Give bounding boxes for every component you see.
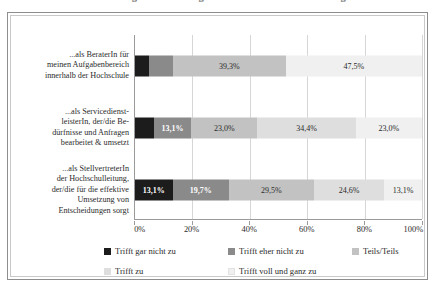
chart-row: ...als BeraterIn für meinen Aufgabenbere…	[135, 35, 422, 97]
stacked-bar: 13,1% 23,0% 34,4% 23,0%	[135, 118, 422, 139]
bar-segment-trifft-gar-nicht-zu[interactable]: 13,1%	[135, 180, 173, 201]
bar-segment-teils-teils[interactable]: 23,0%	[191, 118, 257, 139]
bar-segment-trifft-eher-nicht-zu[interactable]: 13,1%	[154, 118, 192, 139]
legend-swatch-icon	[104, 248, 111, 255]
legend-item-teils-teils[interactable]: Teils/Teils	[352, 241, 399, 261]
legend-item-trifft-eher-nicht-zu[interactable]: Trifft eher nicht zu	[228, 241, 352, 261]
chart-row: ...als Servicedienst- leisterIn, der/die…	[135, 97, 422, 159]
bar-segment-teils-teils[interactable]: 29,5%	[229, 180, 314, 201]
bar-segment-trifft-voll-und-ganz-zu[interactable]: 23,0%	[356, 118, 422, 139]
bar-segment-teils-teils[interactable]: 39,3%	[173, 56, 286, 77]
bar-segment-trifft-eher-nicht-zu[interactable]: 19,7%	[173, 180, 230, 201]
legend-row: Trifft zu Trifft voll und ganz zu	[30, 261, 422, 281]
x-tick-label: 40%	[242, 225, 257, 234]
gridline-100	[422, 35, 423, 219]
category-label-line: Umsetzung von	[17, 195, 129, 205]
category-label-line: innerhalb der Hochschule	[17, 71, 129, 81]
legend-swatch-icon	[228, 248, 235, 255]
chart-legend: Trifft gar nicht zu Trifft eher nicht zu…	[30, 241, 422, 285]
category-label-line: ...als BeraterIn für	[17, 50, 129, 60]
x-tick-label: 20%	[184, 225, 199, 234]
legend-label: Trifft gar nicht zu	[115, 246, 176, 256]
category-label: ...als Servicedienst- leisterIn, der/die…	[17, 107, 135, 149]
category-label-line: meinen Aufgabenbereich	[17, 61, 129, 71]
clipped-figure-title: Abbildung: Einschätzung der Rolle der Ho…	[0, 0, 435, 2]
legend-item-trifft-zu[interactable]: Trifft zu	[104, 261, 228, 281]
bar-segment-trifft-zu[interactable]: 34,4%	[257, 118, 356, 139]
legend-label: Trifft voll und ganz zu	[239, 266, 316, 276]
category-label: ...als StellvertreterIn der Hochschullei…	[17, 164, 135, 216]
x-tick-label: 60%	[299, 225, 314, 234]
plot-area: ...als BeraterIn für meinen Aufgabenbere…	[134, 35, 422, 220]
x-axis: 0% 20% 40% 60% 80% 100%	[134, 221, 422, 237]
legend-label: Teils/Teils	[363, 246, 399, 256]
category-label-line: leisterIn, der/die Be-	[17, 118, 129, 128]
stacked-bar: 13,1% 19,7% 29,5% 24,6% 13,1%	[135, 180, 422, 201]
category-label-line: bearbeitet & umsetzt	[17, 138, 129, 148]
legend-swatch-icon	[352, 248, 359, 255]
legend-label: Trifft eher nicht zu	[239, 246, 304, 256]
legend-row: Trifft gar nicht zu Trifft eher nicht zu…	[30, 241, 422, 261]
legend-item-trifft-gar-nicht-zu[interactable]: Trifft gar nicht zu	[104, 241, 228, 261]
bar-segment-trifft-voll-und-ganz-zu[interactable]: 13,1%	[384, 180, 422, 201]
bar-segment-trifft-zu[interactable]: 24,6%	[314, 180, 385, 201]
bar-segment-trifft-voll-und-ganz-zu[interactable]: 47,5%	[286, 56, 422, 77]
category-label-line: dürfnisse und Anfragen	[17, 128, 129, 138]
chart-row: ...als StellvertreterIn der Hochschullei…	[135, 159, 422, 221]
category-label-line: Entscheidungen sorgt	[17, 206, 129, 216]
x-tick-label: 80%	[357, 225, 372, 234]
legend-swatch-icon	[228, 268, 235, 275]
bar-segment-trifft-gar-nicht-zu[interactable]	[135, 56, 149, 77]
chart-outer-frame: ...als BeraterIn für meinen Aufgabenbere…	[7, 12, 428, 280]
category-label-line: ...als Servicedienst-	[17, 107, 129, 117]
stacked-bar: 39,3% 47,5%	[135, 56, 422, 77]
stacked-bar-chart-figure: Abbildung: Einschätzung der Rolle der Ho…	[0, 0, 435, 286]
legend-swatch-icon	[104, 268, 111, 275]
legend-item-trifft-voll-und-ganz-zu[interactable]: Trifft voll und ganz zu	[228, 261, 316, 281]
legend-label: Trifft zu	[115, 266, 143, 276]
category-label: ...als BeraterIn für meinen Aufgabenbere…	[17, 50, 135, 81]
category-label-line: ...als StellvertreterIn	[17, 164, 129, 174]
category-label-line: der/die für die effektive	[17, 185, 129, 195]
category-label-line: der Hochschulleitung,	[17, 174, 129, 184]
bar-segment-trifft-eher-nicht-zu[interactable]	[149, 56, 173, 77]
x-tick-label: 100%	[404, 225, 424, 234]
bar-segment-trifft-gar-nicht-zu[interactable]	[135, 118, 154, 139]
x-tick-label: 0%	[134, 225, 145, 234]
